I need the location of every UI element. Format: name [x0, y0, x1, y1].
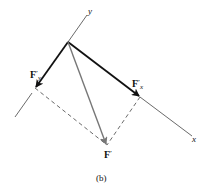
vector-f-prime-label: F′ [104, 149, 112, 160]
y-axis-label: y [87, 6, 92, 16]
vector-f-prime-y: F′y [30, 42, 68, 87]
figure-caption: (b) [96, 173, 107, 183]
x-axis-label: x [191, 134, 196, 144]
vector-f-prime-x: F′x [68, 42, 144, 96]
vector-f-prime-x-label: F′x [132, 78, 144, 91]
x-axis: x [140, 97, 196, 144]
vector-f-prime-y-label: F′y [30, 69, 42, 82]
force-component-diagram: y x F′y F′x F′ (b) [0, 0, 208, 193]
parallelogram-construction-lines [35, 88, 140, 145]
